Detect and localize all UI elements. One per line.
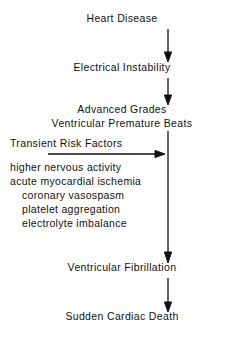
risk-factor-item: higher nervous activity xyxy=(10,160,141,174)
node-electrical-instability-line-1: Electrical Instability xyxy=(0,61,244,75)
arrow-ventricular-fibrillation-to-sudden-cardiac-death xyxy=(164,278,171,312)
risk-factor-item: platelet aggregation xyxy=(10,202,141,216)
arrow-heart-disease-to-electrical-instability xyxy=(164,29,171,62)
risk-factor-item: acute myocardial ischemia xyxy=(10,174,141,188)
risk-factors-list: higher nervous activity acute myocardial… xyxy=(10,160,141,230)
node-advanced-grades: Advanced Grades Ventricular Premature Be… xyxy=(0,103,244,130)
arrow-risk-factors-to-spine xyxy=(48,150,165,157)
node-advanced-grades-line-2: Ventricular Premature Beats xyxy=(0,117,244,131)
node-advanced-grades-line-1: Advanced Grades xyxy=(0,103,244,117)
node-ventricular-fibrillation: Ventricular Fibrillation xyxy=(0,261,244,275)
node-electrical-instability: Electrical Instability xyxy=(0,61,244,75)
node-sudden-cardiac-death: Sudden Cardiac Death xyxy=(0,310,244,324)
risk-factor-item: coronary vasospasm xyxy=(10,188,141,202)
arrow-advanced-grades-to-ventricular-fibrillation xyxy=(164,131,171,263)
node-sudden-cardiac-death-line-1: Sudden Cardiac Death xyxy=(0,310,244,324)
risk-factors-title: Transient Risk Factors xyxy=(10,137,122,149)
node-heart-disease: Heart Disease xyxy=(0,12,244,26)
node-ventricular-fibrillation-line-1: Ventricular Fibrillation xyxy=(0,261,244,275)
risk-factor-item: electrolyte imbalance xyxy=(10,216,141,230)
arrow-electrical-instability-to-advanced-grades xyxy=(164,78,171,105)
flowchart-diagram: Heart Disease Electrical Instability Adv… xyxy=(0,0,244,341)
node-heart-disease-line-1: Heart Disease xyxy=(0,12,244,26)
